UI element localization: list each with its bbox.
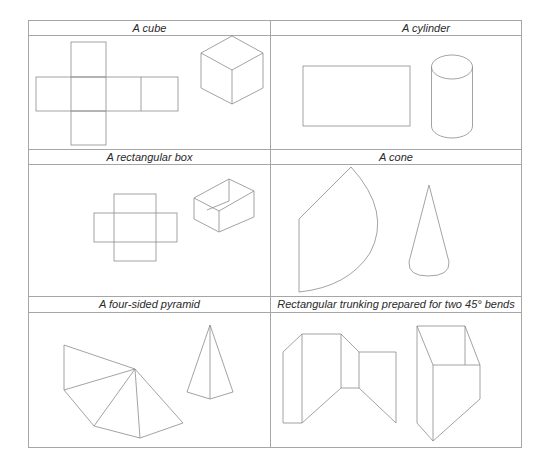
diagram-table bbox=[0, 0, 549, 470]
cube-net bbox=[36, 42, 178, 145]
title-cube: A cube bbox=[29, 21, 270, 35]
title-trunking: Rectangular trunking prepared for two 45… bbox=[271, 297, 521, 311]
title-four-sided-pyramid: A four-sided pyramid bbox=[29, 297, 270, 311]
title-cone: A cone bbox=[271, 150, 521, 164]
cube-3d bbox=[201, 36, 263, 104]
trunking-net bbox=[283, 334, 396, 423]
pyramid-3d bbox=[187, 325, 233, 399]
box-3d bbox=[194, 179, 254, 232]
cone-net bbox=[299, 167, 378, 292]
trunking-3d bbox=[417, 326, 480, 441]
pyramid-net bbox=[64, 345, 183, 438]
box-net bbox=[94, 194, 177, 261]
cylinder-3d bbox=[432, 55, 473, 138]
table-grid bbox=[29, 21, 522, 448]
title-rectangular-box: A rectangular box bbox=[29, 150, 270, 164]
cone-3d bbox=[409, 185, 449, 276]
cylinder-net bbox=[303, 66, 410, 126]
title-cylinder: A cylinder bbox=[271, 21, 521, 35]
